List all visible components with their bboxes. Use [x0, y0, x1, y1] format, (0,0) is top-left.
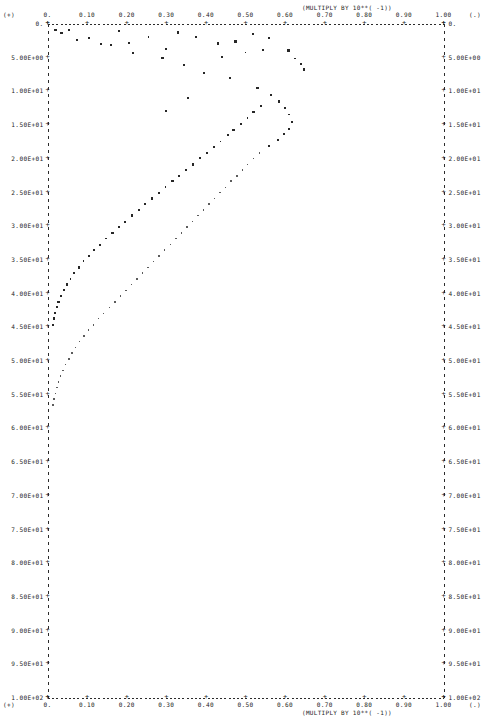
x-tick-bottom-3: +: [164, 694, 168, 701]
y-tick-label-left-2: 1.00E+01: [0, 87, 44, 94]
y-tick-label-left-4: 2.00E+01: [0, 155, 44, 162]
y-tick-left-13: +: [46, 458, 50, 465]
x-tick-label-top-9: 0.90: [389, 11, 419, 18]
y-tick-right-10: +: [442, 357, 446, 364]
x-tick-label-bottom-3: 0.30: [151, 701, 181, 708]
y-tick-left-5: +: [46, 189, 50, 196]
y-tick-right-19: +: [442, 660, 446, 667]
y-tick-label-left-10: 5.00E+01: [0, 357, 44, 364]
data-point: [256, 87, 259, 90]
data-point: [268, 37, 270, 39]
data-point: [203, 72, 205, 74]
y-tick-label-left-12: 6.00E+01: [0, 424, 44, 431]
y-tick-right-13: +: [442, 458, 446, 465]
y-tick-left-20: +: [46, 694, 50, 701]
data-point: [186, 226, 188, 228]
x-tick-label-top-10: 1.00: [429, 11, 459, 18]
x-tick-label-bottom-8: 0.80: [349, 701, 379, 708]
data-point: [288, 128, 290, 130]
x-tick-label-bottom-5: 0.50: [231, 701, 261, 708]
x-tick-top-6: +: [283, 20, 287, 27]
y-tick-label-left-16: 8.00E+01: [0, 559, 44, 566]
data-point: [187, 97, 189, 99]
x-tick-bottom-7: +: [323, 694, 327, 701]
y-tick-label-right-20: 1.00E+02: [449, 694, 489, 701]
data-point: [88, 255, 90, 257]
x-tick-label-bottom-0: 0.: [33, 701, 63, 708]
y-tick-label-left-17: 8.50E+01: [0, 593, 44, 600]
data-point: [114, 301, 116, 303]
data-point: [66, 283, 69, 286]
y-tick-right-18: +: [442, 627, 446, 634]
x-tick-label-top-5: 0.50: [231, 11, 261, 18]
data-point: [287, 49, 290, 52]
data-point: [291, 121, 294, 124]
data-point: [236, 175, 238, 177]
data-point: [93, 324, 95, 326]
x-tick-label-top-7: 0.70: [310, 11, 340, 18]
y-tick-label-right-2: 1.00E+01: [449, 87, 489, 94]
data-point: [68, 29, 70, 31]
data-point: [213, 146, 216, 149]
data-point: [221, 56, 223, 58]
y-tick-label-right-6: 3.00E+01: [449, 222, 489, 229]
data-point: [195, 36, 197, 38]
data-point: [227, 134, 229, 136]
x-tick-label-bottom-10: 1.00: [429, 701, 459, 708]
data-point: [56, 387, 58, 389]
data-point: [177, 31, 180, 34]
data-point: [56, 306, 58, 308]
data-point: [118, 226, 120, 228]
data-point: [54, 312, 56, 314]
data-point: [278, 100, 281, 103]
data-point: [136, 278, 138, 280]
y-tick-label-right-7: 3.50E+01: [449, 256, 489, 263]
y-tick-label-left-6: 3.00E+01: [0, 222, 44, 229]
y-tick-left-9: +: [46, 323, 50, 330]
data-point: [125, 290, 127, 292]
y-tick-left-7: +: [46, 256, 50, 263]
data-point: [110, 44, 113, 47]
x-tick-label-bottom-9: 0.90: [389, 701, 419, 708]
y-tick-left-6: +: [46, 222, 50, 229]
data-point: [68, 358, 70, 360]
y-tick-left-2: +: [46, 87, 50, 94]
data-point: [165, 110, 167, 112]
data-point: [214, 198, 216, 200]
y-tick-label-right-10: 5.00E+01: [449, 357, 489, 364]
x-tick-bottom-1: +: [85, 694, 89, 701]
data-point: [53, 398, 55, 400]
data-point: [53, 317, 56, 320]
y-tick-label-right-4: 2.00E+01: [449, 155, 489, 162]
y-tick-right-7: +: [442, 256, 446, 263]
data-point: [208, 203, 210, 205]
y-tick-label-right-14: 7.00E+01: [449, 492, 489, 499]
data-point: [232, 129, 235, 132]
x-tick-label-top-6: 0.60: [270, 11, 300, 18]
y-tick-label-left-13: 6.50E+01: [0, 458, 44, 465]
y-tick-left-1: +: [46, 54, 50, 61]
data-point: [165, 186, 167, 188]
data-point: [109, 307, 111, 309]
x-tick-label-bottom-7: 0.70: [310, 701, 340, 708]
y-tick-right-11: +: [442, 391, 446, 398]
data-point: [183, 64, 185, 66]
data-point: [144, 203, 146, 205]
data-point: [270, 94, 272, 96]
data-point: [153, 261, 155, 263]
data-point: [65, 364, 67, 366]
y-tick-left-16: +: [46, 559, 50, 566]
y-tick-right-12: +: [442, 424, 446, 431]
y-tick-label-right-15: 7.50E+01: [449, 526, 489, 533]
x-tick-top-7: +: [323, 20, 327, 27]
data-point: [93, 249, 96, 252]
data-point: [70, 278, 72, 280]
y-tick-label-right-11: 5.50E+01: [449, 391, 489, 398]
data-point: [203, 209, 205, 211]
data-point: [220, 141, 222, 143]
data-point: [234, 40, 237, 43]
data-point: [171, 180, 174, 183]
y-tick-label-left-5: 2.50E+01: [0, 189, 44, 196]
data-point: [252, 33, 254, 35]
x-tick-top-1: +: [85, 20, 89, 27]
